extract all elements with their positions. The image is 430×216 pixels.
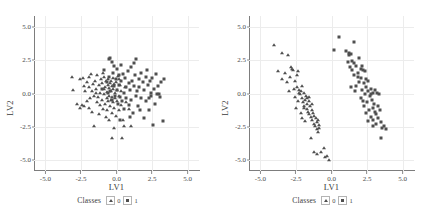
data-point-class-0 xyxy=(87,75,91,78)
y-tick-label: 0.0 xyxy=(22,90,31,98)
data-point-class-1 xyxy=(358,81,361,84)
data-point-class-1 xyxy=(124,86,127,89)
data-point-class-1 xyxy=(146,69,149,72)
gridline-horizontal xyxy=(249,27,414,28)
data-point-class-1 xyxy=(111,98,114,101)
data-point-class-1 xyxy=(145,99,148,102)
data-point-class-0 xyxy=(317,126,321,129)
data-point-class-1 xyxy=(385,127,388,130)
data-point-class-1 xyxy=(119,95,122,98)
data-point-class-0 xyxy=(280,51,284,54)
data-point-class-1 xyxy=(352,41,355,44)
data-point-class-0 xyxy=(87,106,91,109)
data-point-class-1 xyxy=(126,70,129,73)
data-point-class-0 xyxy=(112,106,116,109)
data-point-class-1 xyxy=(122,91,125,94)
data-point-class-1 xyxy=(380,137,383,140)
legend-entry-class-1-right[interactable]: 1 xyxy=(338,196,352,205)
gridline-horizontal xyxy=(34,127,199,128)
legend-label-class-0-right: 0 xyxy=(332,197,335,204)
data-point-class-1 xyxy=(158,95,161,98)
data-point-class-0 xyxy=(315,153,319,156)
data-point-class-0 xyxy=(295,74,299,77)
data-point-class-1 xyxy=(136,90,139,93)
data-point-class-1 xyxy=(375,122,378,125)
legend-right: Classes 0 1 xyxy=(215,196,430,205)
data-point-class-0 xyxy=(327,158,331,161)
data-point-class-1 xyxy=(142,117,145,120)
gridline-horizontal xyxy=(249,60,414,61)
data-point-class-0 xyxy=(100,98,104,101)
data-point-class-0 xyxy=(303,119,307,122)
data-point-class-0 xyxy=(129,125,133,128)
data-point-class-1 xyxy=(369,93,372,96)
data-point-class-1 xyxy=(365,111,368,114)
data-point-class-0 xyxy=(107,118,111,121)
data-point-class-0 xyxy=(302,106,306,109)
data-point-class-1 xyxy=(129,115,132,118)
data-point-class-1 xyxy=(153,87,156,90)
data-point-class-1 xyxy=(119,118,122,121)
data-point-class-1 xyxy=(151,77,154,80)
data-point-class-1 xyxy=(157,85,160,88)
data-point-class-1 xyxy=(354,85,357,88)
plot-area-right xyxy=(249,16,414,171)
data-point-class-1 xyxy=(118,74,121,77)
data-point-class-1 xyxy=(155,73,158,76)
data-point-class-1 xyxy=(138,109,141,112)
data-point-class-1 xyxy=(151,123,154,126)
data-point-class-1 xyxy=(130,98,133,101)
data-point-class-1 xyxy=(153,102,156,105)
data-point-class-1 xyxy=(373,110,376,113)
data-point-class-0 xyxy=(292,87,296,90)
data-point-class-1 xyxy=(114,78,117,81)
data-point-class-0 xyxy=(308,105,312,108)
gridline-horizontal xyxy=(34,27,199,28)
data-point-class-0 xyxy=(110,111,114,114)
y-tick-label: 2.5 xyxy=(22,56,31,64)
data-point-class-1 xyxy=(124,77,127,80)
gridline-horizontal xyxy=(249,94,414,95)
data-point-class-1 xyxy=(372,125,375,128)
data-point-class-1 xyxy=(140,71,143,74)
data-point-class-1 xyxy=(132,62,135,65)
legend-entry-class-0-left[interactable]: 0 xyxy=(106,196,120,205)
data-point-class-0 xyxy=(122,125,126,128)
data-point-class-1 xyxy=(100,87,103,90)
data-point-class-1 xyxy=(128,103,131,106)
data-point-class-0 xyxy=(319,150,323,153)
data-point-class-1 xyxy=(105,81,108,84)
data-point-class-1 xyxy=(138,86,141,89)
data-point-class-1 xyxy=(379,121,382,124)
data-point-class-0 xyxy=(307,95,311,98)
plot-area-left xyxy=(34,16,199,171)
data-point-class-0 xyxy=(88,97,92,100)
data-point-class-1 xyxy=(137,78,140,81)
data-point-class-0 xyxy=(97,113,101,116)
data-point-class-1 xyxy=(117,83,120,86)
data-point-class-0 xyxy=(309,137,313,140)
data-point-class-0 xyxy=(293,79,297,82)
data-point-class-1 xyxy=(378,109,381,112)
triangle-marker-icon xyxy=(106,196,115,205)
data-point-class-0 xyxy=(94,91,98,94)
data-point-class-0 xyxy=(280,78,284,81)
y-tick-label: -5.0 xyxy=(235,156,246,164)
data-point-class-1 xyxy=(121,99,124,102)
y-tick-label: 2.5 xyxy=(237,56,246,64)
legend-entry-class-1-left[interactable]: 1 xyxy=(123,196,137,205)
data-point-class-1 xyxy=(332,49,335,52)
data-point-class-0 xyxy=(285,80,289,83)
data-point-class-1 xyxy=(129,89,132,92)
legend-entry-class-0-right[interactable]: 0 xyxy=(321,196,335,205)
data-point-class-1 xyxy=(362,82,365,85)
data-point-class-0 xyxy=(98,103,102,106)
data-point-class-1 xyxy=(353,90,356,93)
data-point-class-0 xyxy=(92,125,96,128)
data-point-class-1 xyxy=(346,61,349,64)
data-point-class-1 xyxy=(160,81,163,84)
data-point-class-0 xyxy=(325,154,329,157)
data-point-class-1 xyxy=(119,63,122,66)
data-point-class-1 xyxy=(355,65,358,68)
data-point-class-1 xyxy=(373,102,376,105)
